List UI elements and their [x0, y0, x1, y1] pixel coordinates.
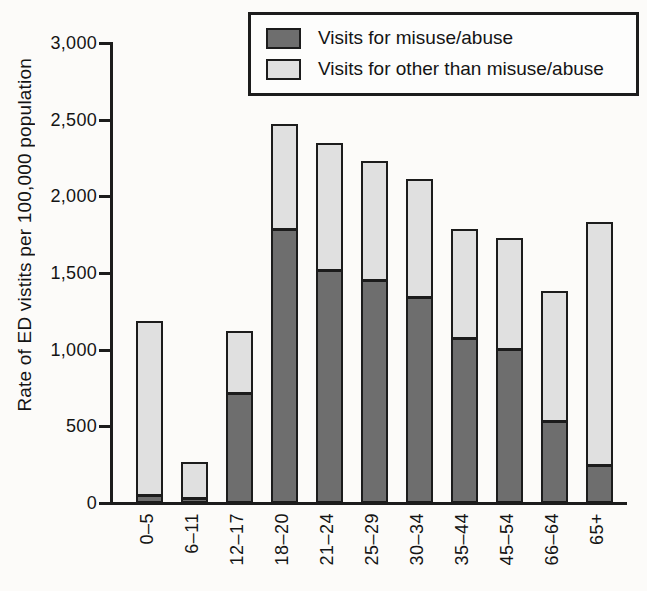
legend-label-other: Visits for other than misuse/abuse [318, 58, 604, 80]
bar-18-20 [271, 124, 298, 503]
y-tick-label: 3,000 [18, 32, 97, 54]
bar-0-5 [136, 321, 163, 503]
legend-swatch-other-icon [266, 59, 301, 80]
bar-66-64 [541, 291, 568, 503]
y-tick-label: 1,500 [18, 262, 97, 284]
bar-segment-misuse [318, 269, 341, 501]
x-tick-label: 21–24 [317, 513, 338, 566]
bar-6-11 [181, 462, 208, 503]
bar-21-24 [316, 143, 343, 503]
legend-entry-misuse: Visits for misuse/abuse [266, 27, 636, 49]
y-tick-label: 500 [18, 415, 97, 437]
y-tick-label: 1,000 [18, 339, 97, 361]
x-tick-label: 0–5 [137, 513, 158, 545]
y-tick-mark [99, 502, 112, 505]
x-tick-label: 35–44 [452, 513, 473, 566]
x-tick-label: 66–64 [542, 513, 563, 566]
y-tick-label: 2,000 [18, 185, 97, 207]
bar-45-54 [496, 238, 523, 503]
bar-segment-misuse [453, 337, 476, 501]
y-tick-mark [99, 425, 112, 428]
legend-swatch-misuse-icon [266, 28, 301, 49]
legend-label-misuse: Visits for misuse/abuse [318, 27, 513, 49]
y-tick-mark [99, 272, 112, 275]
y-tick-mark [99, 349, 112, 352]
bar-segment-misuse [498, 348, 521, 501]
y-tick-label: 0 [18, 492, 97, 514]
bar-segment-misuse [273, 228, 296, 501]
y-tick-mark [99, 119, 112, 122]
x-tick-label: 25–29 [362, 513, 383, 566]
bar-segment-misuse [543, 420, 566, 501]
x-tick-label: 30–34 [407, 513, 428, 566]
bar-30-34 [406, 179, 433, 503]
bar-segment-misuse [183, 497, 206, 501]
bar-segment-misuse [228, 392, 251, 501]
y-tick-mark [99, 195, 112, 198]
x-tick-label: 12–17 [227, 513, 248, 566]
stacked-bar-chart-figure: Rate of ED vistits per 100,000 populatio… [0, 0, 647, 591]
x-tick-label: 18–20 [272, 513, 293, 566]
y-tick-mark [99, 42, 112, 45]
bar-segment-misuse [138, 494, 161, 501]
bar-35-44 [451, 229, 478, 503]
x-tick-label: 45–54 [497, 513, 518, 566]
bar-segment-misuse [588, 464, 611, 501]
legend: Visits for misuse/abuse Visits for other… [248, 12, 639, 96]
bar-12-17 [226, 331, 253, 503]
y-tick-label: 2,500 [18, 109, 97, 131]
x-tick-label: 65+ [587, 513, 608, 545]
bar-segment-misuse [408, 296, 431, 501]
legend-entry-other: Visits for other than misuse/abuse [266, 58, 636, 80]
bar-25-29 [361, 161, 388, 503]
bar-segment-misuse [363, 279, 386, 501]
bar-65+ [586, 222, 613, 503]
x-tick-label: 6–11 [182, 513, 203, 554]
